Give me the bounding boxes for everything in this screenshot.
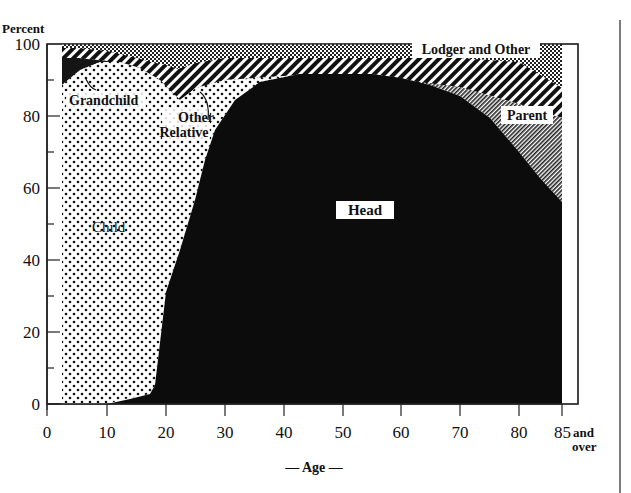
x-tick-85: 85 — [554, 423, 571, 442]
label-grandchild: Grandchild — [69, 93, 138, 108]
y-tick-0: 0 — [32, 395, 41, 414]
label-lodger-and-other: Lodger and Other — [422, 42, 531, 57]
y-tick-100: 100 — [15, 35, 41, 54]
label-child: Child — [92, 219, 126, 235]
x-axis-title: — Age — — [284, 460, 344, 475]
y-tick-80: 80 — [23, 107, 40, 126]
x-tick-80: 80 — [511, 423, 528, 442]
y-tick-labels: 0 20 40 60 80 100 — [15, 35, 41, 414]
y-axis-title: Percent — [2, 21, 45, 36]
y-tick-60: 60 — [23, 179, 40, 198]
x-tick-30: 30 — [217, 423, 234, 442]
x-tick-70: 70 — [452, 423, 469, 442]
x-axis — [47, 404, 562, 416]
y-tick-20: 20 — [23, 323, 40, 342]
stacked-area-chart: 0 20 40 60 80 100 Percent 0 10 20 30 40 … — [0, 0, 631, 493]
label-relative: Relative — [160, 125, 209, 140]
x-tick-20: 20 — [158, 423, 175, 442]
x-tick-labels: 0 10 20 30 40 50 60 70 80 — [43, 423, 528, 442]
x-tick-10: 10 — [99, 423, 116, 442]
label-parent: Parent — [507, 108, 548, 123]
x-tick-over: over — [572, 439, 597, 454]
x-tick-0: 0 — [43, 423, 52, 442]
x-tick-and: and — [573, 425, 595, 440]
y-tick-40: 40 — [23, 251, 40, 270]
x-tick-60: 60 — [393, 423, 410, 442]
x-tick-40: 40 — [276, 423, 293, 442]
label-head: Head — [348, 202, 383, 218]
x-tick-50: 50 — [335, 423, 352, 442]
